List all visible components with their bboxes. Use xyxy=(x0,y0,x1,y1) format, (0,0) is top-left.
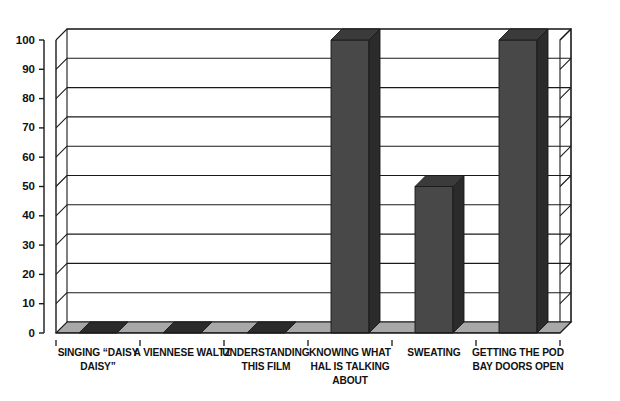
y-axis-tick-label: 0 xyxy=(29,327,35,339)
x-axis-category-label: SWEATING xyxy=(407,347,461,358)
y-axis-tick-label: 60 xyxy=(22,151,35,163)
y-axis-ticks xyxy=(39,40,44,333)
y-axis-tick-label: 20 xyxy=(22,268,35,280)
y-axis-tick-label: 100 xyxy=(16,34,35,46)
gridlines-group xyxy=(56,29,571,333)
chart-container: 0102030405060708090100 SINGING “DAISYDAI… xyxy=(0,0,620,401)
bar-front-face xyxy=(415,187,453,334)
x-axis-category-label: SINGING “DAISYDAISY” xyxy=(58,347,139,372)
y-axis-tick-label: 80 xyxy=(22,92,35,104)
gridline-depth-connector xyxy=(56,263,67,274)
chart-floor xyxy=(56,322,571,340)
gridline-depth-connector xyxy=(56,293,67,304)
x-axis-category-label: KNOWING WHATHAL IS TALKINGABOUT xyxy=(309,347,392,386)
y-axis-tick-label: 10 xyxy=(22,297,35,309)
bar-column xyxy=(331,29,380,333)
gridline-depth-connector xyxy=(56,58,67,69)
bar-front-face xyxy=(499,40,537,333)
y-axis-tick-label: 50 xyxy=(22,180,35,192)
bar-side-face xyxy=(537,29,548,333)
bar-chart-3d: 0102030405060708090100 SINGING “DAISYDAI… xyxy=(0,0,620,401)
gridline-depth-connector xyxy=(56,88,67,99)
gridline-depth-connector xyxy=(56,29,67,40)
x-axis-category-label: A VIENNESE WALTZ xyxy=(134,347,231,358)
y-axis-tick-label: 30 xyxy=(22,239,35,251)
gridline-depth-connector xyxy=(56,146,67,157)
floor-top-face xyxy=(56,322,571,333)
gridline-depth-connector xyxy=(56,234,67,245)
x-axis-ticks xyxy=(56,340,560,346)
y-axis-tick-label: 90 xyxy=(22,63,35,75)
y-axis-labels: 0102030405060708090100 xyxy=(16,34,35,339)
gridline-depth-connector xyxy=(56,176,67,187)
bar-column xyxy=(499,29,548,333)
y-axis-tick-label: 70 xyxy=(22,121,35,133)
bar-side-face xyxy=(453,176,464,334)
gridline-depth-connector xyxy=(56,117,67,128)
x-axis-category-label: UNDERSTANDINGTHIS FILM xyxy=(222,347,310,372)
floor-front-face xyxy=(56,333,560,340)
bar-front-face xyxy=(331,40,369,333)
x-axis-category-label: GETTING THE PODBAY DOORS OPEN xyxy=(472,347,564,372)
gridline-depth-connector xyxy=(56,205,67,216)
bar-side-face xyxy=(369,29,380,333)
y-axis-tick-label: 40 xyxy=(22,209,35,221)
bar-column xyxy=(415,176,464,334)
x-axis-labels: SINGING “DAISYDAISY”A VIENNESE WALTZUNDE… xyxy=(58,347,564,386)
